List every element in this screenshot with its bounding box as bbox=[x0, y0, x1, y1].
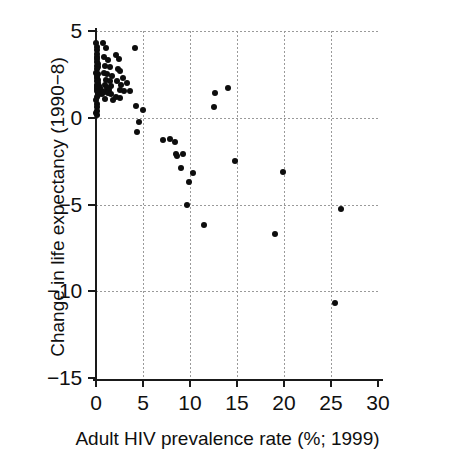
x-tick-label: 15 bbox=[217, 392, 257, 413]
data-point bbox=[160, 137, 166, 143]
data-point bbox=[190, 170, 196, 176]
data-point bbox=[338, 206, 344, 212]
data-point bbox=[117, 95, 123, 101]
data-point bbox=[136, 119, 142, 125]
x-tick-label: 5 bbox=[123, 392, 163, 413]
scatter-plot-figure: 50−5−10−15 051015202530 Adult HIV preval… bbox=[0, 0, 455, 467]
data-point bbox=[332, 300, 338, 306]
data-point bbox=[124, 80, 130, 86]
x-axis-label: Adult HIV prevalence rate (%; 1999) bbox=[0, 428, 455, 450]
data-point bbox=[201, 222, 207, 228]
data-point bbox=[116, 56, 122, 62]
data-point bbox=[140, 107, 146, 113]
data-point bbox=[94, 112, 100, 118]
x-axis-spine bbox=[93, 379, 383, 381]
data-point bbox=[272, 231, 278, 237]
data-point bbox=[132, 45, 138, 51]
data-point bbox=[133, 103, 139, 109]
y-axis-label: Change in life expectancy (1990−8) bbox=[47, 0, 69, 417]
x-tick-label: 25 bbox=[311, 392, 351, 413]
data-point bbox=[211, 104, 217, 110]
data-point bbox=[117, 68, 123, 74]
x-tick-label: 20 bbox=[264, 392, 304, 413]
x-tick-label: 10 bbox=[170, 392, 210, 413]
data-point bbox=[280, 169, 286, 175]
data-point bbox=[186, 179, 192, 185]
plot-area bbox=[96, 31, 378, 378]
data-point bbox=[184, 202, 190, 208]
data-point bbox=[174, 153, 180, 159]
data-point bbox=[102, 96, 108, 102]
data-point bbox=[172, 139, 178, 145]
data-point bbox=[178, 165, 184, 171]
x-tick-label: 30 bbox=[358, 392, 398, 413]
data-point bbox=[232, 158, 238, 164]
data-point bbox=[225, 85, 231, 91]
data-point bbox=[212, 90, 218, 96]
data-point bbox=[127, 88, 133, 94]
data-point bbox=[180, 151, 186, 157]
data-point bbox=[107, 64, 113, 70]
x-tick-label: 0 bbox=[76, 392, 116, 413]
data-point bbox=[103, 45, 109, 51]
data-point bbox=[134, 129, 140, 135]
